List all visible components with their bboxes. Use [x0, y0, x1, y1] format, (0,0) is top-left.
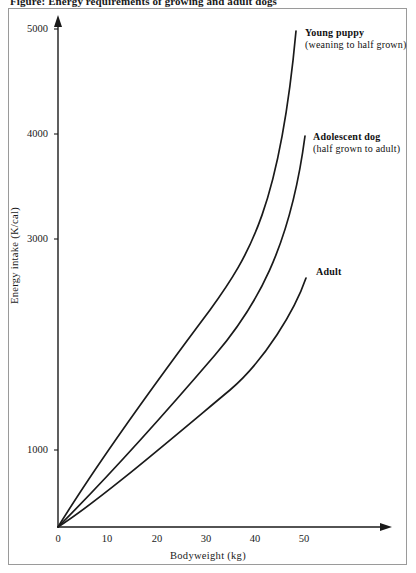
x-tick-label-20: 20 — [143, 533, 171, 544]
series-label-adult-line1: Adult — [316, 266, 341, 278]
series-label-adult: Adult — [316, 266, 341, 278]
y-tick-label-1000: 1000 — [4, 444, 48, 455]
y-tick-label-5000: 5000 — [4, 23, 48, 34]
series-label-young-puppy: Young puppy (weaning to half grown) — [305, 27, 407, 50]
x-tick-label-30: 30 — [192, 533, 220, 544]
figure-root: Figure: Energy requirements of growing a… — [0, 0, 416, 573]
x-axis — [58, 523, 392, 531]
x-tick-label-40: 40 — [241, 533, 269, 544]
series-line-young-puppy — [58, 31, 296, 527]
x-tick-label-50: 50 — [290, 533, 318, 544]
y-axis-title: Energy intake (K/cal) — [9, 186, 20, 326]
series-label-young-puppy-line1: Young puppy — [305, 27, 407, 39]
y-tick-label-4000: 4000 — [4, 128, 48, 139]
series-label-adolescent-dog-line2: (half grown to adult) — [313, 143, 400, 155]
series-label-adolescent-dog: Adolescent dog (half grown to adult) — [313, 131, 400, 154]
series-label-young-puppy-line2: (weaning to half grown) — [305, 39, 407, 51]
series-label-adolescent-dog-line1: Adolescent dog — [313, 131, 400, 143]
x-axis-title: Bodyweight (kg) — [118, 550, 298, 561]
x-tick-label-0: 0 — [44, 533, 72, 544]
x-tick-label-10: 10 — [93, 533, 121, 544]
chart-plot-area — [0, 0, 416, 573]
